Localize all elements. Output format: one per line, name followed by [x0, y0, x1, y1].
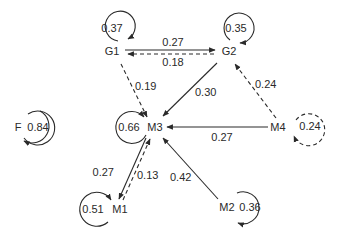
edge-m2-m3-arrow [163, 138, 218, 199]
node-m1-label: M1 [112, 203, 127, 215]
edge-m1-m3-weight: 0.13 [137, 169, 158, 181]
edge-g2-m3-weight: 0.30 [195, 86, 216, 98]
self-loop-m3-weight: 0.66 [118, 121, 139, 133]
edge-m4-g2-arrow [235, 64, 276, 118]
node-f-label: F [15, 121, 22, 133]
edge-m3-m1-weight: 0.27 [93, 166, 114, 178]
self-loop-m1-weight: 0.51 [82, 203, 103, 215]
node-f: F 0.84 [15, 111, 55, 145]
node-m4-label: M4 [270, 121, 285, 133]
edge-m4-m3-weight: 0.27 [211, 131, 232, 143]
node-g2-label: G2 [222, 45, 237, 57]
node-m2: M2 0.36 [219, 192, 260, 224]
self-loop-g2-weight: 0.35 [225, 22, 246, 34]
node-g2: 0.35 G2 [222, 13, 254, 57]
node-m2-label: M2 [219, 201, 234, 213]
node-m4: M4 0.24 [270, 114, 324, 146]
edge-g1-g2-weight: 0.27 [162, 36, 183, 48]
node-m1: 0.51 M1 [80, 192, 128, 226]
edge-g2-g1-weight: 0.18 [162, 56, 183, 68]
transition-diagram: 0.37 G1 0.35 G2 0.27 0.18 0.19 0.30 0.24… [0, 0, 340, 240]
self-loop-f-weight: 0.84 [27, 121, 48, 133]
node-m3-label: M3 [147, 121, 162, 133]
node-m3: 0.66 M3 [116, 111, 163, 143]
node-g1-label: G1 [105, 45, 120, 57]
self-loop-m2-weight: 0.36 [239, 201, 260, 213]
self-loop-m4-weight: 0.24 [299, 120, 320, 132]
edge-m2-m3-weight: 0.42 [170, 171, 191, 183]
self-loop-g1-weight: 0.37 [101, 22, 122, 34]
edge-m4-g2-weight: 0.24 [255, 78, 276, 90]
edge-g1-m3-weight: 0.19 [135, 80, 156, 92]
